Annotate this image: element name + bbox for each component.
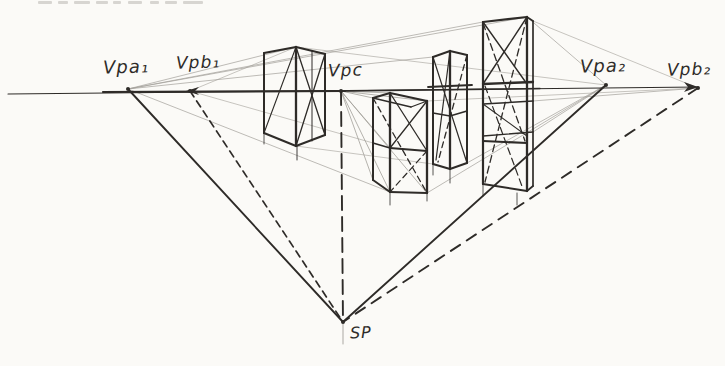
box-2-edge <box>373 93 390 98</box>
box-4-edge <box>485 17 527 182</box>
vanishing-point-label-vpa1: Vpa₁ <box>103 55 150 78</box>
guide-line <box>190 91 373 143</box>
line-vpa2-sp <box>343 85 606 322</box>
box-1-edge <box>264 47 296 133</box>
box-2-edge <box>390 101 427 148</box>
box-2-edge <box>373 98 411 107</box>
guide-line <box>128 89 390 192</box>
box-3-edge <box>450 111 467 116</box>
point-marker <box>339 89 343 93</box>
point-marker <box>126 87 130 91</box>
box-3-edge <box>450 163 467 169</box>
box-3-edge <box>428 85 472 87</box>
guide-line <box>296 146 433 164</box>
box-2-edge <box>390 192 427 193</box>
box-2-edge <box>390 93 427 151</box>
point-marker <box>341 320 345 324</box>
box-1-edge <box>296 47 325 54</box>
box-2-edge <box>390 148 427 151</box>
point-marker <box>604 83 608 87</box>
station-point-label-sp: SP <box>350 323 372 343</box>
box-1-edge <box>296 135 325 146</box>
box-1-edge <box>264 47 296 53</box>
vanishing-point-label-vpc: Vpc <box>328 59 363 80</box>
box-3-edge <box>433 164 450 169</box>
vanishing-point-label-vpb1: Vpb₁ <box>176 51 221 73</box>
guide-line <box>341 91 390 192</box>
horizon-line <box>103 91 345 92</box>
vanishing-point-label-vpb2: Vpb₂ <box>667 58 712 80</box>
perspective-sketch-page: Vpa₁ Vpb₁ Vpc Vpa₂ Vpb₂ SP <box>0 0 725 366</box>
box-1-edge <box>296 54 325 146</box>
point-marker <box>188 89 192 93</box>
box-3-edge <box>450 51 467 55</box>
box-3-edge <box>433 51 450 57</box>
point-marker <box>696 86 700 90</box>
line-vpc-sp <box>341 91 343 322</box>
box-4-edge <box>483 104 527 136</box>
line-vpb2-sp <box>343 88 698 322</box>
vanishing-point-label-vpa2: Vpa₂ <box>580 54 627 77</box>
guide-line <box>533 85 606 132</box>
line-vpa1-sp <box>128 89 343 322</box>
guide-line <box>427 85 606 193</box>
